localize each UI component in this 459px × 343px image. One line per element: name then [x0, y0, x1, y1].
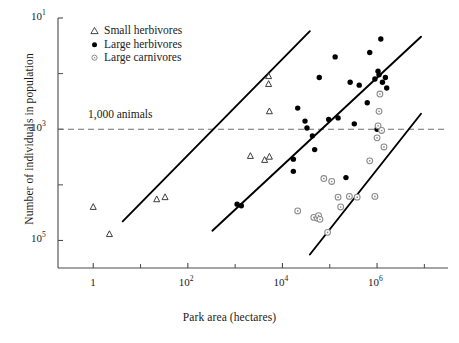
legend-label: Large herbivores: [102, 38, 182, 52]
x-tick-label-0: 1: [90, 276, 96, 288]
x-tick-label-3: 106: [368, 276, 383, 288]
legend-item-large-herbivores: Large herbivores: [86, 38, 182, 52]
x-axis-title: Park area (hectares): [0, 311, 459, 323]
x-tick-label-1: 102: [179, 276, 194, 288]
open-triangle-icon: [86, 26, 102, 35]
legend-item-small-herbivores: Small herbivores: [86, 24, 182, 38]
legend-item-large-carnivores: Large carnivores: [86, 51, 182, 65]
y-tick-label-1: 103: [31, 121, 46, 133]
legend-label: Large carnivores: [102, 51, 181, 65]
legend: Small herbivores Large herbivores Large …: [86, 24, 182, 65]
threshold-label: 1,000 animals: [88, 108, 153, 120]
y-tick-label-0: 105: [31, 232, 46, 244]
plot-canvas: [0, 0, 459, 343]
y-axis-title: Number of individuals in population: [23, 14, 35, 264]
data-points: [90, 36, 389, 236]
x-tick-label-2: 104: [273, 276, 288, 288]
legend-label: Small herbivores: [102, 24, 182, 38]
open-circle-icon: [86, 53, 102, 62]
y-tick-label-2: 101: [31, 10, 46, 22]
scatter-plot-figure: Number of individuals in population Park…: [0, 0, 459, 343]
filled-circle-icon: [86, 40, 102, 49]
